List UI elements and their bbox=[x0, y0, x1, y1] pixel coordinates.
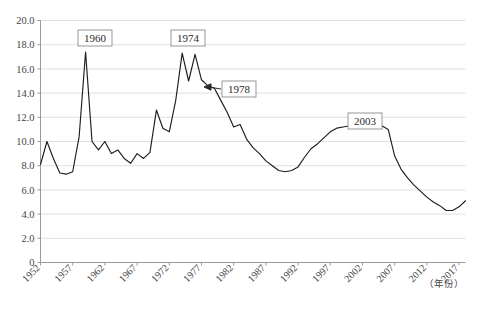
gridlines-group bbox=[41, 21, 466, 239]
annotation-label: 1974 bbox=[177, 32, 200, 44]
y-axis-tick-label: 12.0 bbox=[16, 112, 34, 123]
x-axis-unit-label: （年份） bbox=[424, 278, 464, 289]
y-axis-tick-label: 16.0 bbox=[16, 64, 34, 75]
x-axis-tick-label: 1957 bbox=[52, 262, 74, 284]
x-axis-tick-label: 1977 bbox=[181, 262, 203, 284]
x-axis-tick-label: 2007 bbox=[374, 262, 396, 284]
y-axis-tick-label: 4.0 bbox=[21, 209, 34, 220]
y-axis-tick-labels: 02.04.06.08.010.012.014.016.018.020.0 bbox=[16, 15, 34, 268]
y-axis-tick-label: 10.0 bbox=[16, 136, 34, 147]
chart-annotation: 1960 bbox=[78, 30, 112, 46]
x-axis-tick-label: 1997 bbox=[310, 262, 332, 284]
chart-annotation: 1978 bbox=[204, 81, 256, 97]
data-line-series bbox=[41, 52, 466, 211]
x-axis-tick-label: 1992 bbox=[278, 262, 300, 284]
y-axis-tick-label: 20.0 bbox=[16, 15, 34, 26]
annotation-label: 1978 bbox=[228, 83, 251, 95]
chart-annotation: 2003 bbox=[348, 113, 382, 129]
y-axis-tick-label: 6.0 bbox=[21, 185, 34, 196]
annotation-label: 1960 bbox=[84, 32, 107, 44]
annotation-label: 2003 bbox=[354, 115, 377, 127]
x-axis-tick-label: 1972 bbox=[149, 262, 171, 284]
x-axis-tick-label: 1962 bbox=[84, 262, 106, 284]
x-axis-tick-label: 1967 bbox=[117, 262, 139, 284]
x-axis-tick-label: 1982 bbox=[213, 262, 235, 284]
line-chart: 02.04.06.08.010.012.014.016.018.020.0 19… bbox=[0, 0, 477, 309]
chart-container: 02.04.06.08.010.012.014.016.018.020.0 19… bbox=[0, 0, 477, 309]
data-series-group bbox=[41, 52, 466, 211]
chart-annotation: 1974 bbox=[171, 30, 205, 46]
y-axis-tick-label: 18.0 bbox=[16, 39, 34, 50]
y-axis-tick-label: 14.0 bbox=[16, 88, 34, 99]
y-axis-tick-label: 2.0 bbox=[21, 233, 34, 244]
x-axis-tick-label: 1952 bbox=[20, 262, 42, 284]
x-axis-tick-label: 2002 bbox=[342, 262, 364, 284]
x-axis-tick-labels: 1952195719621967197219771982198719921997… bbox=[20, 262, 460, 284]
x-axis-tick-label: 1987 bbox=[245, 262, 267, 284]
y-axis-tick-label: 8.0 bbox=[21, 160, 34, 171]
